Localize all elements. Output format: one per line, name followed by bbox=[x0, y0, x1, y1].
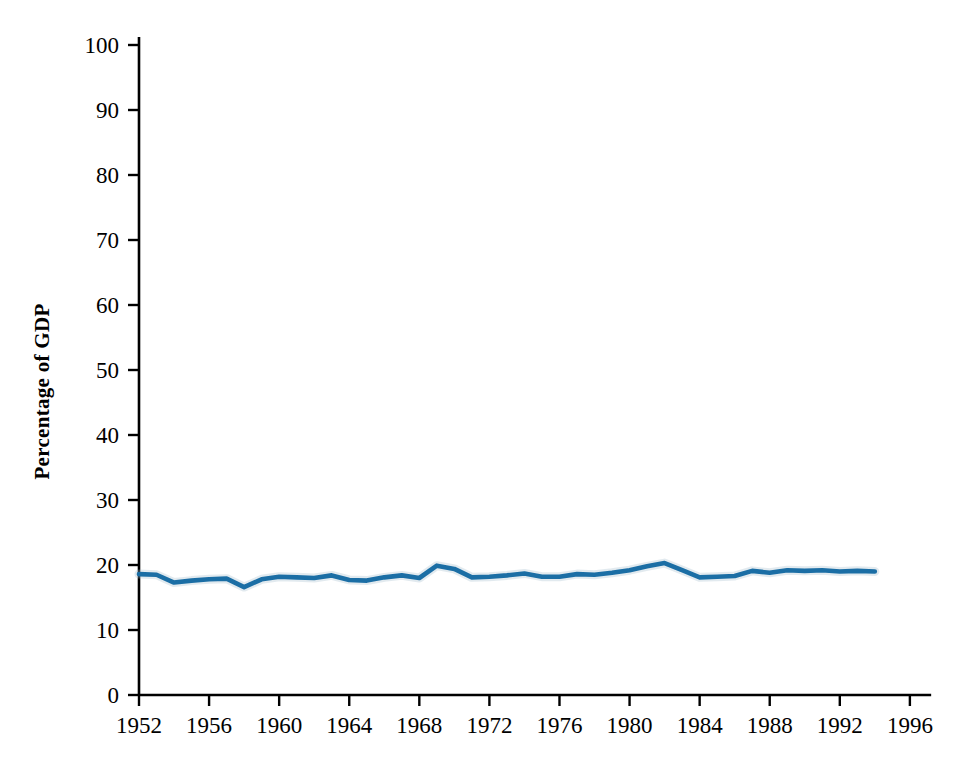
y-axis-tick-label: 50 bbox=[96, 358, 119, 383]
chart-container: Percentage of GDP 0102030405060708090100… bbox=[0, 0, 977, 783]
y-axis-tick-label: 80 bbox=[96, 163, 119, 188]
y-axis-tick-label: 60 bbox=[96, 293, 119, 318]
line-chart-plot: 0102030405060708090100 19521956196019641… bbox=[0, 0, 977, 783]
x-axis-tick-label: 1952 bbox=[116, 713, 162, 738]
x-axis-tick-label: 1996 bbox=[887, 713, 933, 738]
data-series-group bbox=[139, 563, 875, 587]
x-axis-tick-label: 1984 bbox=[677, 713, 724, 738]
x-axis-tick-label: 1980 bbox=[607, 713, 653, 738]
x-axis-tick-label: 1968 bbox=[396, 713, 442, 738]
x-axis-tick-label: 1956 bbox=[186, 713, 232, 738]
x-axis-tick-label: 1992 bbox=[817, 713, 863, 738]
x-axis-tick-label: 1972 bbox=[466, 713, 512, 738]
y-axis-tick-label: 10 bbox=[96, 618, 119, 643]
y-axis-tick-label: 70 bbox=[96, 228, 119, 253]
y-axis-tick-label: 20 bbox=[96, 553, 119, 578]
y-axis-tick-label: 30 bbox=[96, 488, 119, 513]
y-axis-tick-label: 0 bbox=[108, 683, 120, 708]
x-axis-tick-label: 1964 bbox=[326, 713, 373, 738]
x-axis: 1952195619601964196819721976198019841988… bbox=[116, 695, 933, 738]
y-axis-tick-label: 90 bbox=[96, 98, 119, 123]
x-axis-tick-label: 1988 bbox=[747, 713, 793, 738]
x-axis-tick-label: 1976 bbox=[536, 713, 582, 738]
y-axis-tick-label: 100 bbox=[85, 33, 120, 58]
y-axis-tick-label: 40 bbox=[96, 423, 119, 448]
x-axis-tick-label: 1960 bbox=[256, 713, 302, 738]
y-axis: 0102030405060708090100 bbox=[85, 33, 140, 708]
